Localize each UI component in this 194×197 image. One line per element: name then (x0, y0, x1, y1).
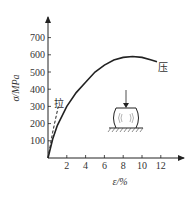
x-axis-title: ε/% (112, 176, 127, 187)
stress-strain-chart: 24681012 100200300400500600700 σ/MPa ε/%… (0, 0, 194, 197)
y-tick-label: 600 (30, 49, 45, 60)
x-tick-label: 4 (83, 160, 88, 171)
y-tick-label: 500 (30, 67, 45, 78)
tension-curve (48, 106, 58, 158)
x-tick-label: 12 (156, 160, 166, 171)
x-ticks: 24681012 (64, 155, 166, 171)
compression-label: 压 (158, 62, 168, 73)
x-tick-label: 6 (102, 160, 107, 171)
tension-label: 拉 (54, 97, 64, 109)
y-tick-label: 100 (30, 135, 45, 146)
x-tick-label: 2 (64, 160, 69, 171)
y-tick-label: 300 (30, 101, 45, 112)
x-tick-label: 8 (121, 160, 126, 171)
y-tick-label: 400 (30, 84, 45, 95)
specimen-compression-icon (108, 90, 143, 132)
y-axis-title: σ/MPa (10, 74, 21, 101)
y-tick-label: 700 (30, 32, 45, 43)
x-tick-label: 10 (137, 160, 147, 171)
compression-curve (48, 57, 157, 159)
y-tick-label: 200 (30, 118, 45, 129)
